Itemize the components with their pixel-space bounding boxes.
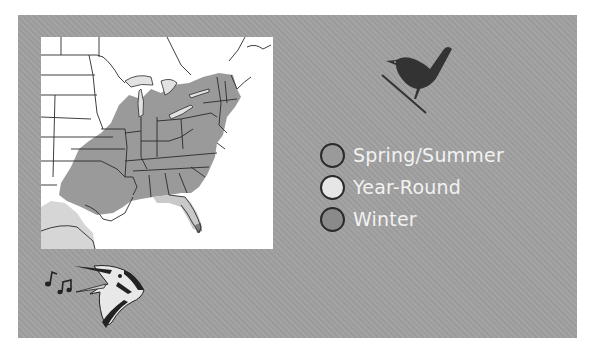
legend-item-spring-summer: Spring/Summer: [320, 139, 504, 171]
legend-item-year-round: Year-Round: [320, 171, 504, 203]
range-legend: Spring/Summer Year-Round Winter: [320, 139, 504, 235]
legend-item-winter: Winter: [320, 203, 504, 235]
year-round-swatch: [320, 175, 345, 200]
spring-summer-swatch: [320, 143, 345, 168]
legend-label: Winter: [353, 208, 417, 230]
music-notes-icon: [45, 272, 72, 294]
legend-label: Spring/Summer: [353, 144, 504, 166]
winter-swatch: [320, 207, 345, 232]
wren-silhouette-icon: [380, 43, 470, 115]
range-map: [41, 37, 273, 249]
singing-warbler-icon: [40, 262, 170, 332]
legend-label: Year-Round: [353, 176, 461, 198]
eastern-us-map: [41, 37, 273, 249]
range-map-panel: Spring/Summer Year-Round Winter: [18, 15, 577, 338]
